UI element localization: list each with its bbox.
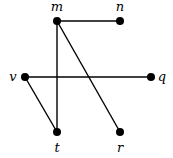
node-label-r: r <box>117 140 124 155</box>
graph-diagram: mnvqtr <box>0 0 173 158</box>
node-v <box>21 73 29 81</box>
node-q <box>147 73 155 81</box>
node-n <box>116 17 124 25</box>
edge-v-t <box>25 77 57 132</box>
node-label-q: q <box>158 69 166 84</box>
node-label-t: t <box>54 140 60 155</box>
node-label-m: m <box>51 0 63 14</box>
node-m <box>53 17 61 25</box>
node-label-v: v <box>9 69 17 84</box>
node-r <box>116 128 124 136</box>
node-label-n: n <box>116 0 124 14</box>
node-t <box>53 128 61 136</box>
edges-group <box>25 21 151 132</box>
